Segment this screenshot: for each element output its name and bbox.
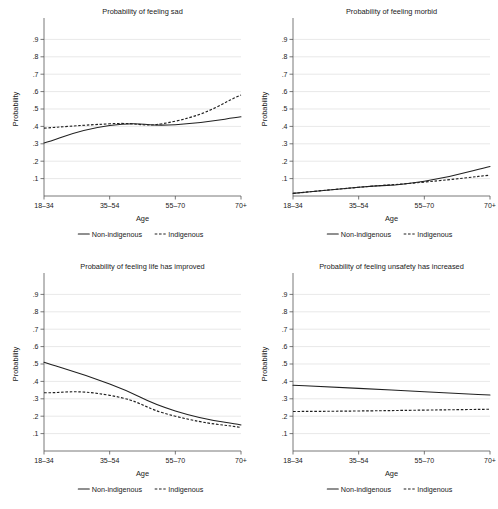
y-tick-label: .7 [33,326,39,333]
legend-label-non-indigenous: Non-indigenous [341,230,392,239]
chart-svg: Probability of feeling unsafety has incr… [249,255,498,509]
y-tick-label: .8 [33,308,39,315]
x-tick-label: 70+ [484,457,496,464]
y-tick-label: .3 [282,140,288,147]
plot-area: Probability of feeling unsafety has incr… [249,255,498,509]
y-tick-label: .5 [282,360,288,367]
y-tick-label: .5 [33,360,39,367]
y-tick-label: .9 [33,291,39,298]
y-tick-label: .1 [33,175,39,182]
x-tick-label: 35–54 [349,457,369,464]
legend-label-indigenous: Indigenous [417,485,453,494]
series-line-indigenous [44,392,241,428]
y-axis-title: Probability [260,91,269,126]
y-tick-label: .3 [33,140,39,147]
legend-label-non-indigenous: Non-indigenous [92,485,143,494]
x-tick-label: 55–70 [166,457,186,464]
y-tick-label: .2 [282,158,288,165]
legend-label-indigenous: Indigenous [417,230,453,239]
chart-panel: Probability of feeling unsafety has incr… [249,255,498,509]
series-line-indigenous [293,409,490,411]
x-tick-label: 18–34 [34,202,54,209]
chart-panel: Probability of feeling morbid.1.2.3.4.5.… [249,0,498,255]
series-line-non-indigenous [44,362,241,425]
y-tick-label: .9 [282,36,288,43]
x-axis-title: Age [385,469,398,478]
y-tick-label: .4 [282,123,288,130]
plot-area: Probability of feeling sad.1.2.3.4.5.6.7… [0,0,249,255]
y-tick-label: .1 [33,430,39,437]
y-tick-label: .8 [33,53,39,60]
series-line-indigenous [44,95,241,128]
x-tick-label: 35–54 [349,202,369,209]
y-tick-label: .7 [282,326,288,333]
chart-panel: Probability of feeling sad.1.2.3.4.5.6.7… [0,0,249,255]
y-tick-label: .9 [33,36,39,43]
y-tick-label: .2 [33,413,39,420]
x-tick-label: 35–54 [100,457,120,464]
y-tick-label: .6 [282,88,288,95]
y-tick-label: .2 [282,413,288,420]
x-tick-label: 55–70 [415,457,435,464]
legend-label-non-indigenous: Non-indigenous [341,485,392,494]
chart-figure-grid: Probability of feeling sad.1.2.3.4.5.6.7… [0,0,498,509]
chart-svg: Probability of feeling life has improved… [0,255,249,509]
y-tick-label: .4 [33,378,39,385]
y-axis-title: Probability [11,346,20,381]
y-axis-title: Probability [11,91,20,126]
series-line-non-indigenous [293,166,490,193]
y-tick-label: .4 [33,123,39,130]
legend-label-non-indigenous: Non-indigenous [92,230,143,239]
plot-area: Probability of feeling morbid.1.2.3.4.5.… [249,0,498,255]
y-tick-label: .6 [33,88,39,95]
x-tick-label: 70+ [484,202,496,209]
y-tick-label: .2 [33,158,39,165]
x-axis-title: Age [136,214,149,223]
x-axis-title: Age [385,214,398,223]
panel-title: Probability of feeling sad [102,7,183,16]
y-tick-label: .3 [282,395,288,402]
y-tick-label: .5 [33,105,39,112]
y-tick-label: .7 [282,71,288,78]
panel-title: Probability of feeling life has improved [80,262,204,271]
series-line-non-indigenous [44,117,241,143]
x-tick-label: 18–34 [283,457,303,464]
chart-svg: Probability of feeling morbid.1.2.3.4.5.… [249,0,498,255]
panel-title: Probability of feeling unsafety has incr… [319,262,464,271]
y-tick-label: .9 [282,291,288,298]
y-tick-label: .8 [282,308,288,315]
x-axis-title: Age [136,469,149,478]
x-tick-label: 18–34 [283,202,303,209]
y-tick-label: .3 [33,395,39,402]
x-tick-label: 18–34 [34,457,54,464]
chart-panel: Probability of feeling life has improved… [0,255,249,509]
x-tick-label: 70+ [235,457,247,464]
x-tick-label: 55–70 [415,202,435,209]
y-tick-label: .1 [282,430,288,437]
y-tick-label: .1 [282,175,288,182]
y-tick-label: .6 [282,343,288,350]
y-tick-label: .4 [282,378,288,385]
x-tick-label: 70+ [235,202,247,209]
y-tick-label: .8 [282,53,288,60]
legend-label-indigenous: Indigenous [168,485,204,494]
legend-label-indigenous: Indigenous [168,230,204,239]
y-tick-label: .5 [282,105,288,112]
panel-title: Probability of feeling morbid [346,7,437,16]
y-axis-title: Probability [260,346,269,381]
y-tick-label: .7 [33,71,39,78]
chart-svg: Probability of feeling sad.1.2.3.4.5.6.7… [0,0,249,255]
x-tick-label: 55–70 [166,202,186,209]
x-tick-label: 35–54 [100,202,120,209]
plot-area: Probability of feeling life has improved… [0,255,249,509]
series-line-non-indigenous [293,385,490,395]
y-tick-label: .6 [33,343,39,350]
